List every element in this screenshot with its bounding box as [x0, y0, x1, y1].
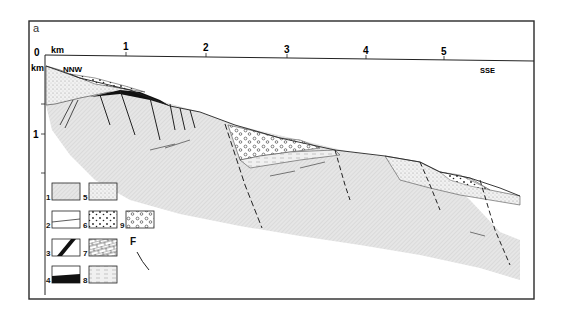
legend-swatch-5	[89, 183, 117, 200]
top-axis-tick-2: 2	[203, 42, 209, 53]
top-axis-unit: km	[51, 45, 64, 55]
left-axis-tick-1: 1	[33, 129, 39, 140]
legend-fault-label: F	[130, 236, 136, 247]
legend-label-6: 6	[83, 221, 88, 230]
left-axis-ticks	[41, 104, 45, 173]
top-axis-tick-1: 1	[123, 41, 129, 52]
top-axis-tick-5: 5	[441, 46, 447, 57]
legend-swatch-8	[89, 266, 117, 283]
top-axis-line	[45, 55, 534, 61]
left-axis-unit: km	[31, 63, 44, 73]
legend-swatch-9	[126, 211, 154, 228]
top-axis-tick-3: 3	[284, 44, 290, 55]
legend-label-4: 4	[46, 276, 51, 285]
panel-label: a	[33, 22, 40, 34]
top-axis-zero: 0	[34, 47, 40, 58]
legend-label-8: 8	[83, 276, 88, 285]
geologic-cross-section: a 0 km 1 2 3 4 5 km 1 NNW SSE	[0, 0, 570, 317]
legend-swatch-1	[52, 183, 80, 200]
fault-symbol-icon	[137, 252, 149, 270]
legend-label-7: 7	[83, 249, 88, 258]
legend-swatch-6	[89, 211, 117, 228]
legend-label-2: 2	[46, 221, 51, 230]
orientation-right-label: SSE	[480, 66, 495, 75]
top-axis-tick-4: 4	[363, 45, 369, 56]
legend-swatch-7	[89, 239, 117, 256]
legend-label-3: 3	[46, 249, 51, 258]
legend-label-5: 5	[83, 193, 88, 202]
legend-label-9: 9	[120, 221, 125, 230]
legend-label-1: 1	[46, 193, 51, 202]
